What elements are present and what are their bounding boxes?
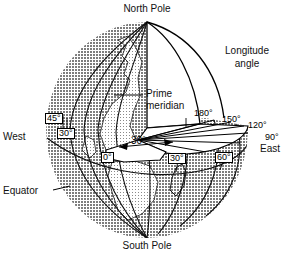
label-prime-meridian-line1: Prime	[146, 88, 172, 99]
mark-west-45: 45°	[45, 113, 63, 124]
label-north-pole: North Pole	[99, 3, 195, 14]
mark-east-90: 90°	[265, 132, 279, 142]
prime-meridian-cut-face	[147, 22, 200, 128]
mark-east-30: 30°	[168, 153, 186, 164]
mark-east-60: 60°	[215, 152, 233, 163]
mark-east-150: 150°	[222, 114, 241, 124]
mark-east-120: 120°	[248, 120, 267, 130]
label-equator: Equator	[3, 185, 38, 196]
mark-east-180: 180°	[194, 108, 213, 118]
label-south-pole: South Pole	[99, 240, 195, 251]
label-longitude-angle-line1: Longitude	[205, 45, 289, 56]
label-west: West	[3, 131, 26, 142]
mark-angle-30: 30°	[131, 136, 146, 146]
longitude-globe-figure: North Pole South Pole West East Equator …	[0, 0, 294, 258]
mark-west-30: 30°	[57, 128, 75, 139]
label-prime-meridian-line2: meridian	[146, 100, 184, 111]
label-east: East	[260, 143, 280, 154]
label-longitude-angle-line2: angle	[205, 58, 289, 69]
mark-zero: 0°	[101, 152, 114, 163]
